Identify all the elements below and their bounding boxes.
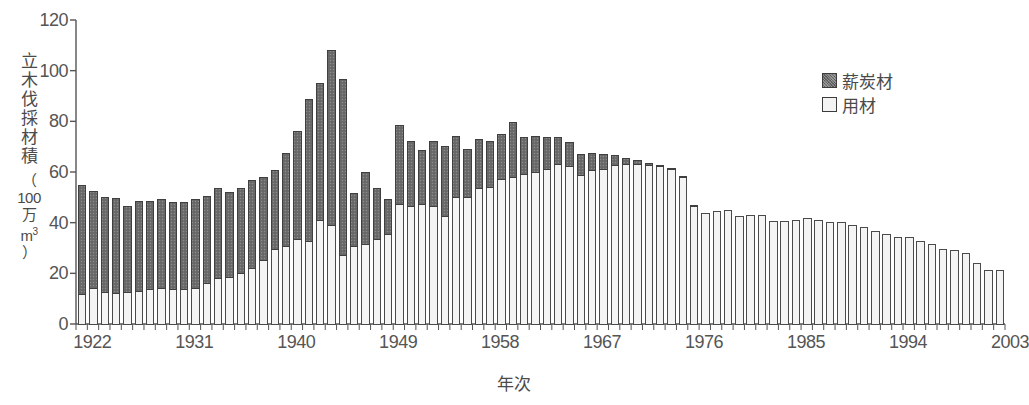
- bar-segment-yozai[interactable]: [339, 256, 346, 324]
- bar-segment-shintanzai[interactable]: [124, 206, 131, 292]
- bar-segment-yozai[interactable]: [622, 164, 629, 324]
- bar-segment-yozai[interactable]: [894, 238, 901, 324]
- bar-segment-shintanzai[interactable]: [588, 153, 595, 171]
- bar-segment-shintanzai[interactable]: [237, 188, 244, 273]
- bar-segment-shintanzai[interactable]: [396, 125, 403, 205]
- bar-1923[interactable]: [90, 191, 97, 324]
- bar-segment-yozai[interactable]: [113, 294, 120, 324]
- bar-segment-shintanzai[interactable]: [634, 161, 641, 165]
- bar-segment-yozai[interactable]: [974, 263, 981, 324]
- bar-segment-yozai[interactable]: [498, 180, 505, 324]
- bar-1928[interactable]: [147, 201, 154, 324]
- bar-segment-yozai[interactable]: [520, 175, 527, 324]
- bar-1994[interactable]: [894, 238, 901, 324]
- bar-segment-yozai[interactable]: [362, 244, 369, 324]
- bar-segment-yozai[interactable]: [192, 289, 199, 324]
- bar-1989[interactable]: [838, 223, 845, 324]
- bar-segment-yozai[interactable]: [396, 205, 403, 324]
- bar-segment-yozai[interactable]: [826, 223, 833, 324]
- bar-segment-shintanzai[interactable]: [475, 139, 482, 188]
- bar-1984[interactable]: [781, 221, 788, 324]
- bar-segment-shintanzai[interactable]: [645, 163, 652, 166]
- bar-segment-shintanzai[interactable]: [622, 158, 629, 164]
- bar-segment-yozai[interactable]: [985, 271, 992, 324]
- bar-segment-shintanzai[interactable]: [464, 149, 471, 197]
- bar-1931[interactable]: [181, 202, 188, 324]
- bar-1943[interactable]: [316, 83, 323, 324]
- bar-1991[interactable]: [860, 228, 867, 324]
- bar-1972[interactable]: [645, 163, 652, 324]
- bar-1970[interactable]: [622, 158, 629, 324]
- bar-segment-shintanzai[interactable]: [339, 80, 346, 256]
- bar-segment-shintanzai[interactable]: [362, 172, 369, 244]
- bar-segment-shintanzai[interactable]: [135, 201, 142, 291]
- bar-1945[interactable]: [339, 80, 346, 324]
- bar-segment-shintanzai[interactable]: [679, 177, 686, 178]
- bar-segment-shintanzai[interactable]: [430, 142, 437, 207]
- bar-segment-shintanzai[interactable]: [158, 200, 165, 289]
- bar-segment-yozai[interactable]: [249, 268, 256, 324]
- bar-segment-yozai[interactable]: [996, 271, 1003, 324]
- bar-segment-yozai[interactable]: [702, 214, 709, 324]
- bar-2001[interactable]: [974, 263, 981, 324]
- bar-1946[interactable]: [350, 194, 357, 324]
- bar-segment-shintanzai[interactable]: [305, 100, 312, 242]
- bar-segment-shintanzai[interactable]: [260, 177, 267, 261]
- bar-2000[interactable]: [962, 253, 969, 324]
- bar-1939[interactable]: [271, 171, 278, 324]
- bar-1922[interactable]: [79, 186, 86, 324]
- bar-segment-yozai[interactable]: [203, 283, 210, 324]
- bar-segment-shintanzai[interactable]: [566, 143, 573, 167]
- bar-segment-yozai[interactable]: [611, 166, 618, 324]
- bar-1988[interactable]: [826, 223, 833, 324]
- bar-2002[interactable]: [985, 271, 992, 324]
- bar-segment-shintanzai[interactable]: [520, 138, 527, 175]
- bar-segment-yozai[interactable]: [736, 216, 743, 324]
- bar-segment-shintanzai[interactable]: [611, 156, 618, 166]
- bar-segment-shintanzai[interactable]: [316, 83, 323, 220]
- bar-segment-shintanzai[interactable]: [407, 142, 414, 207]
- bar-segment-shintanzai[interactable]: [226, 192, 233, 277]
- bar-1969[interactable]: [611, 156, 618, 324]
- bar-1961[interactable]: [520, 138, 527, 324]
- bar-segment-yozai[interactable]: [294, 239, 301, 324]
- bar-1940[interactable]: [282, 153, 289, 324]
- bar-segment-yozai[interactable]: [124, 292, 131, 324]
- bar-segment-yozai[interactable]: [849, 225, 856, 324]
- bar-1999[interactable]: [951, 251, 958, 324]
- bar-segment-yozai[interactable]: [215, 278, 222, 324]
- bar-1959[interactable]: [498, 134, 505, 324]
- bar-1963[interactable]: [543, 138, 550, 324]
- bar-segment-yozai[interactable]: [543, 169, 550, 324]
- bar-segment-shintanzai[interactable]: [690, 206, 697, 207]
- bar-1980[interactable]: [736, 216, 743, 324]
- bar-1968[interactable]: [600, 154, 607, 324]
- bar-segment-yozai[interactable]: [645, 166, 652, 324]
- bar-1958[interactable]: [486, 142, 493, 324]
- bar-1971[interactable]: [634, 161, 641, 324]
- bar-1941[interactable]: [294, 131, 301, 324]
- bar-segment-yozai[interactable]: [532, 172, 539, 324]
- bar-segment-yozai[interactable]: [781, 221, 788, 324]
- bar-1983[interactable]: [770, 221, 777, 324]
- bar-1948[interactable]: [373, 188, 380, 324]
- legend-item-yozai[interactable]: 用材: [822, 92, 893, 116]
- bar-1925[interactable]: [113, 199, 120, 324]
- bar-segment-yozai[interactable]: [418, 205, 425, 324]
- bar-segment-yozai[interactable]: [79, 295, 86, 324]
- bar-segment-yozai[interactable]: [430, 206, 437, 324]
- bar-1950[interactable]: [396, 125, 403, 324]
- bar-segment-shintanzai[interactable]: [192, 200, 199, 289]
- bar-segment-yozai[interactable]: [328, 225, 335, 324]
- bar-segment-yozai[interactable]: [679, 177, 686, 324]
- bar-1967[interactable]: [588, 153, 595, 324]
- bar-segment-shintanzai[interactable]: [577, 154, 584, 176]
- bar-segment-yozai[interactable]: [305, 242, 312, 324]
- bar-1978[interactable]: [713, 211, 720, 324]
- bar-segment-yozai[interactable]: [600, 169, 607, 324]
- bar-segment-yozai[interactable]: [260, 261, 267, 324]
- bar-segment-yozai[interactable]: [860, 228, 867, 324]
- bar-1932[interactable]: [192, 200, 199, 324]
- bar-segment-yozai[interactable]: [577, 176, 584, 324]
- bar-segment-yozai[interactable]: [770, 221, 777, 324]
